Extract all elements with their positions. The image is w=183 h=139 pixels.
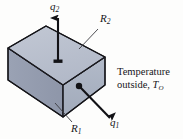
heat-source-dot [76, 83, 82, 89]
label-r1-subscript: 1 [78, 127, 82, 136]
label-temperature-line2-text: outside, [117, 79, 153, 90]
label-temperature-outside: Temperature outside, TO [117, 66, 170, 92]
label-r2: R2 [100, 13, 110, 26]
label-r1: R1 [71, 123, 81, 136]
label-r1-base: R [71, 122, 78, 134]
label-temperature-symbol-subscript: O [158, 84, 163, 92]
label-r2-subscript: 2 [107, 17, 111, 26]
label-temperature-line1: Temperature [117, 66, 170, 77]
leader-line-r2 [79, 29, 98, 49]
label-r2-base: R [100, 12, 107, 24]
label-q1: q1 [110, 117, 119, 130]
heat-flux-diagram: q2 R2 R1 q1 Temperature outside, TO [0, 0, 183, 139]
label-temperature-symbol: TO [153, 79, 164, 90]
label-q2: q2 [50, 1, 59, 14]
label-q1-subscript: 1 [116, 121, 120, 130]
label-q2-subscript: 2 [56, 5, 60, 14]
heat-flux-up-base [54, 60, 63, 63]
label-temperature-line2: outside, TO [117, 79, 170, 92]
